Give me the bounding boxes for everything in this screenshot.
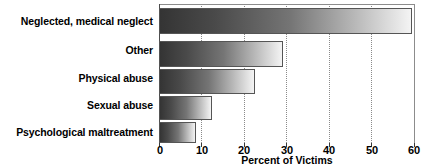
category-axis-labels: Neglected, medical neglect Other Physica… bbox=[0, 0, 156, 143]
category-label-sexual-abuse: Sexual abuse bbox=[87, 100, 153, 111]
bar-neglected-medical-neglect[interactable] bbox=[159, 8, 412, 34]
x-axis-title: Percent of Victims bbox=[159, 155, 415, 166]
bar-psychological-maltreatment[interactable] bbox=[159, 122, 196, 143]
category-label-other: Other bbox=[125, 45, 153, 56]
bar-sexual-abuse[interactable] bbox=[159, 96, 212, 120]
category-label-neglected-medical-neglect: Neglected, medical neglect bbox=[21, 16, 153, 27]
category-label-physical-abuse: Physical abuse bbox=[79, 73, 153, 84]
plot-area bbox=[159, 4, 415, 143]
bar-other[interactable] bbox=[159, 41, 283, 67]
bar-physical-abuse[interactable] bbox=[159, 69, 255, 94]
bar-chart: Neglected, medical neglect Other Physica… bbox=[0, 0, 436, 166]
plot-frame-right bbox=[414, 4, 415, 143]
category-label-psychological-maltreatment: Psychological maltreatment bbox=[16, 127, 153, 138]
